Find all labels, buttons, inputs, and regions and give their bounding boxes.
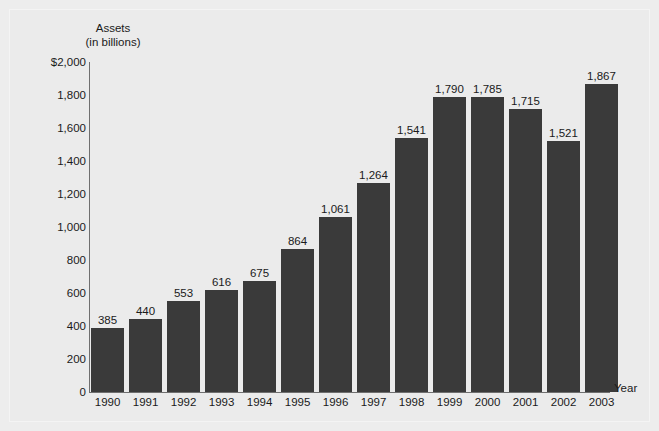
bar — [319, 217, 352, 392]
bar — [433, 97, 466, 392]
bar-value-label: 675 — [250, 267, 269, 279]
bar-value-label: 1,061 — [321, 203, 350, 215]
y-axis-tick-label: 400 — [30, 320, 86, 332]
bar-group: 675 — [243, 62, 276, 392]
bar-group: 1,541 — [395, 62, 428, 392]
bar — [91, 328, 124, 392]
bar-group: 864 — [281, 62, 314, 392]
bar-group: 385 — [91, 62, 124, 392]
bar — [167, 301, 200, 392]
bar-value-label: 1,790 — [435, 83, 464, 95]
bar-value-label: 1,785 — [473, 83, 502, 95]
bar — [547, 141, 580, 392]
bar — [243, 281, 276, 392]
bar — [205, 290, 238, 392]
bar-value-label: 440 — [136, 305, 155, 317]
x-axis-tick-label: 2003 — [579, 396, 624, 408]
bar-value-label: 1,264 — [359, 169, 388, 181]
y-axis-tick-label: 1,400 — [30, 155, 86, 167]
y-axis-tick-label: 1,000 — [30, 221, 86, 233]
y-axis-tick-label: 0 — [30, 386, 86, 398]
bar-group: 1,790 — [433, 62, 466, 392]
x-axis-tick-labels: 1990199119921993199419951996199719981999… — [90, 396, 553, 414]
bar-group: 616 — [205, 62, 238, 392]
y-axis-tick-label: 800 — [30, 254, 86, 266]
bar — [471, 97, 504, 392]
x-axis-title: Year — [614, 382, 637, 394]
bar — [129, 319, 162, 392]
bar-value-label: 385 — [98, 314, 117, 326]
y-axis-tick-label: $2,000 — [30, 56, 86, 68]
bar — [509, 109, 542, 392]
bar-group: 1,785 — [471, 62, 504, 392]
bar — [357, 183, 390, 392]
y-axis-tick-label: 200 — [30, 353, 86, 365]
y-axis-tick-label: 1,200 — [30, 188, 86, 200]
bar-value-label: 1,715 — [511, 95, 540, 107]
bar — [585, 84, 618, 392]
bar-value-label: 864 — [288, 235, 307, 247]
bar-value-label: 1,521 — [549, 127, 578, 139]
chart-figure: Assets (in billions) 02004006008001,0001… — [0, 0, 659, 431]
bar-group: 1,867 — [585, 62, 618, 392]
bar-group: 553 — [167, 62, 200, 392]
bar-value-label: 1,867 — [587, 70, 616, 82]
bar — [281, 249, 314, 392]
bar-value-label: 616 — [212, 276, 231, 288]
bar-group: 440 — [129, 62, 162, 392]
bar-value-label: 1,541 — [397, 124, 426, 136]
bar-value-label: 553 — [174, 287, 193, 299]
y-axis-tick-label: 600 — [30, 287, 86, 299]
x-axis-line — [89, 392, 610, 393]
y-axis-tick-label: 1,600 — [30, 122, 86, 134]
bar-group: 1,264 — [357, 62, 390, 392]
bar-group: 1,521 — [547, 62, 580, 392]
bar-group: 1,061 — [319, 62, 352, 392]
bar-group: 1,715 — [509, 62, 542, 392]
y-axis-tick-label: 1,800 — [30, 89, 86, 101]
bar — [395, 138, 428, 392]
y-axis-tick-labels: 02004006008001,0001,2001,4001,6001,800$2… — [26, 0, 86, 431]
bar-series: 3854405536166758641,0611,2641,5411,7901,… — [90, 62, 553, 392]
